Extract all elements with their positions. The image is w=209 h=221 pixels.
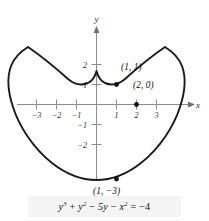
equation-rhs: −4 xyxy=(139,202,150,213)
y-axis-arrow xyxy=(94,26,100,33)
x-tick-label--1: −1 xyxy=(72,111,82,120)
x-tick-label-1: 1 xyxy=(114,111,118,120)
point-marker-1--3 xyxy=(114,177,119,182)
x-axis-label: x xyxy=(195,100,200,110)
point-marker-2-0 xyxy=(134,102,139,107)
equation-minus-2: − xyxy=(111,202,117,213)
equation-y2-exponent: 2 xyxy=(83,200,87,207)
equation-y3-exponent: 3 xyxy=(63,200,67,207)
y-tick-label--1: −1 xyxy=(77,121,87,130)
y-axis-label: y xyxy=(94,14,99,24)
equation-term-5y: 5y xyxy=(98,202,108,213)
point-label-2-0: (2, 0) xyxy=(133,80,154,90)
y-tick-label-2: 2 xyxy=(83,61,87,70)
equation-x2-exponent: 2 xyxy=(124,200,128,207)
x-tick-label--3: −3 xyxy=(32,111,42,120)
equation-minus-1: − xyxy=(89,202,95,213)
equation-caption-box: y3 + y2 − 5y − x2 = −4 xyxy=(28,196,181,217)
point-marker-1-1 xyxy=(114,82,119,87)
x-axis-arrow xyxy=(188,102,195,108)
y-tick-label--2: −2 xyxy=(77,141,87,150)
x-tick-label--2: −2 xyxy=(52,111,62,120)
equation-text: y3 + y2 − 5y − x2 = −4 xyxy=(59,200,151,212)
x-tick-label-2: 2 xyxy=(134,111,138,120)
equation-equals: = xyxy=(130,202,136,213)
graph-figure: −3 −2 −1 1 2 3 2 1 −1 −2 x y (1, 1) (2, … xyxy=(0,0,209,221)
x-tick-label-3: 3 xyxy=(153,111,158,120)
point-label-1-1: (1, 1) xyxy=(121,62,142,72)
equation-plus: + xyxy=(70,202,76,213)
point-label-1--3: (1, −3) xyxy=(93,186,120,196)
